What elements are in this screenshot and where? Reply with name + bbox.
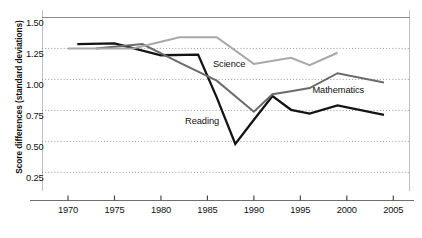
chart-container: Score differences (standard deviations) … bbox=[0, 0, 422, 238]
x-axis-line-svg bbox=[0, 0, 422, 238]
